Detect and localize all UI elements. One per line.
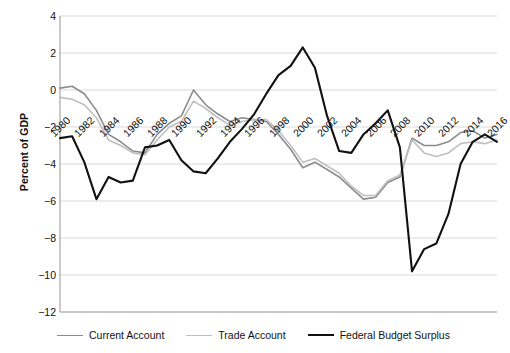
legend-swatch-icon [186,335,212,336]
x-tick-label: 1992 [193,114,218,139]
x-tick-label: 1980 [48,114,73,139]
x-tick-label: 2000 [290,114,315,139]
x-tick-label: 2004 [339,114,364,139]
x-tick-label: 1986 [120,114,145,139]
legend-item[interactable]: Current Account [57,329,164,341]
legend-item[interactable]: Federal Budget Surplus [308,329,450,341]
x-tick-label: 2016 [485,114,510,139]
legend-swatch-icon [308,334,334,336]
x-tick-label: 1994 [217,114,242,139]
legend-swatch-icon [57,335,83,336]
x-tick-label: 1984 [96,114,121,139]
x-tick-label: 1998 [266,114,291,139]
x-tick-label: 1996 [242,114,267,139]
x-tick-label: 2002 [315,114,340,139]
x-tick-label: 2006 [363,114,388,139]
x-tick-label: 1990 [169,114,194,139]
chart-legend: Current AccountTrade AccountFederal Budg… [0,329,507,341]
x-tick-label: 1982 [72,114,97,139]
legend-item[interactable]: Trade Account [186,329,285,341]
x-tick-label: 2014 [460,114,485,139]
legend-label: Current Account [89,329,164,341]
x-tick-label: 1988 [145,114,170,139]
legend-label: Federal Budget Surplus [340,329,450,341]
x-tick-label: 2010 [412,114,437,139]
legend-label: Trade Account [218,329,285,341]
x-tick-label: 2008 [387,114,412,139]
x-tick-label: 2012 [436,114,461,139]
